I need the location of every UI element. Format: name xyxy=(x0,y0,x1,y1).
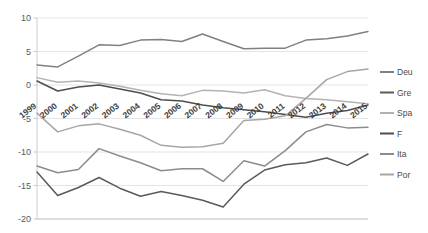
x-tick-label: 2013 xyxy=(307,101,328,121)
x-tick-label-group: 2000 xyxy=(38,101,59,121)
x-tick-label-group: 2010 xyxy=(245,101,266,121)
series-line-spa xyxy=(37,78,368,104)
chart-legend: DeuGreSpaFItaPor xyxy=(380,67,413,180)
x-tick-label-group: 2002 xyxy=(79,101,100,121)
chart-canvas: 1050-5-10-15-20 199920002001200220032004… xyxy=(0,0,428,233)
legend-label: Gre xyxy=(397,88,411,98)
legend-label: Spa xyxy=(397,108,412,118)
x-tick-label: 2006 xyxy=(162,101,183,121)
x-tick-label-group: 2006 xyxy=(162,101,183,121)
legend-label: F xyxy=(397,129,402,139)
x-tick-label-group: 2008 xyxy=(203,101,224,121)
y-tick-label: -20 xyxy=(18,214,31,224)
y-tick-label: 0 xyxy=(26,80,31,90)
x-tick-label: 2010 xyxy=(245,101,266,121)
legend-label: Por xyxy=(397,170,410,180)
x-tick-label-group: 2005 xyxy=(141,101,162,121)
legend-item-ita[interactable]: Ita xyxy=(380,149,407,159)
legend-item-deu[interactable]: Deu xyxy=(380,67,413,77)
legend-item-f[interactable]: F xyxy=(380,129,402,139)
legend-label: Deu xyxy=(397,67,413,77)
x-tick-label-group: 2013 xyxy=(307,101,328,121)
x-tick-label: 2009 xyxy=(224,101,245,121)
series-line-ita xyxy=(37,125,368,182)
x-tick-label: 2004 xyxy=(121,101,142,121)
x-tick-label-group: 2009 xyxy=(224,101,245,121)
y-tick-label: -15 xyxy=(18,181,31,191)
legend-item-por[interactable]: Por xyxy=(380,170,410,180)
x-tick-label-group: 2003 xyxy=(100,101,121,121)
x-tick-label-group: 2014 xyxy=(327,101,348,121)
y-tick-label: -10 xyxy=(18,147,31,157)
x-tick-label: 2002 xyxy=(79,101,100,121)
x-axis-tick-labels: 1999200020012002200320042005200620072008… xyxy=(17,101,369,121)
x-tick-label-group: 2001 xyxy=(59,101,80,121)
x-tick-label: 2003 xyxy=(100,101,121,121)
legend-label: Ita xyxy=(397,149,407,159)
x-tick-label: 2005 xyxy=(141,101,162,121)
legend-item-gre[interactable]: Gre xyxy=(380,88,411,98)
x-tick-label-group: 2004 xyxy=(121,101,142,121)
legend-item-spa[interactable]: Spa xyxy=(380,108,412,118)
x-tick-label: 2008 xyxy=(203,101,224,121)
x-tick-label: 2014 xyxy=(327,101,348,121)
x-tick-label-group: 2007 xyxy=(183,101,204,121)
line-chart: 1050-5-10-15-20 199920002001200220032004… xyxy=(0,0,428,233)
series-line-deu xyxy=(37,31,368,67)
y-tick-label: 5 xyxy=(26,47,31,57)
x-tick-label: 2007 xyxy=(183,101,204,121)
y-tick-label: 10 xyxy=(21,13,31,23)
x-tick-label: 2001 xyxy=(59,101,80,121)
x-tick-label: 2000 xyxy=(38,101,59,121)
